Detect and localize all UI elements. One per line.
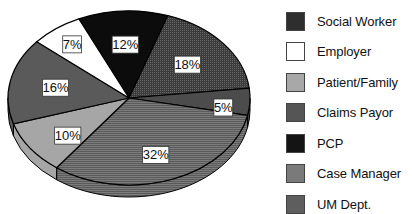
legend-item-employer: Employer [286,37,401,68]
legend-item-social-worker: Social Worker [286,6,401,37]
swatch-employer [286,42,305,61]
legend-label: Claims Payor [317,105,393,120]
swatch-um-dept [286,195,305,214]
legend-label: UM Dept. [317,197,371,212]
svg-text:10%: 10% [55,128,81,143]
swatch-patient-family [286,73,305,92]
swatch-claims-payor [286,103,305,122]
legend-label: Patient/Family [317,75,398,90]
svg-text:18%: 18% [174,57,200,72]
svg-text:16%: 16% [42,80,68,95]
pie-chart: 12%18%5%32%10%16%7% [0,0,270,214]
legend-item-um-dept: UM Dept. [286,189,401,214]
svg-text:7%: 7% [63,37,82,52]
legend-item-patient-family: Patient/Family [286,67,401,98]
pie-label: 12% [112,36,139,53]
legend-item-claims-payor: Claims Payor [286,98,401,129]
svg-text:12%: 12% [112,37,138,52]
svg-text:5%: 5% [214,100,233,115]
pie-label: 5% [214,99,233,116]
legend-label: Case Manager [317,166,401,181]
legend-label: Social Worker [317,14,396,29]
pie-label: 18% [174,56,201,73]
legend: Social Worker Employer Patient/Family Cl… [286,6,401,214]
legend-item-pcp: PCP [286,128,401,159]
swatch-case-manager [286,164,305,183]
swatch-pcp [286,134,305,153]
swatch-social-worker [286,12,305,31]
legend-item-case-manager: Case Manager [286,159,401,190]
legend-label: PCP [317,136,343,151]
svg-text:32%: 32% [143,147,169,162]
pie-label: 32% [143,146,170,163]
pie-label: 10% [55,127,82,144]
pie-label: 16% [42,79,69,96]
legend-label: Employer [317,44,371,59]
pie-label: 7% [63,36,82,53]
